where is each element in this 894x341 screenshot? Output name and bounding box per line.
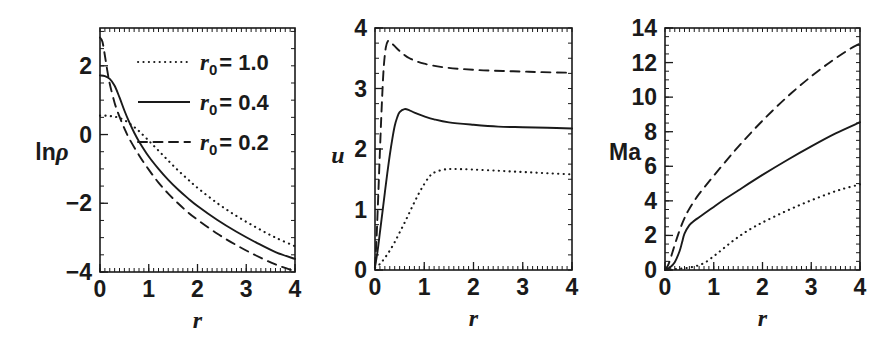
x-tick-label: 3 [805,274,818,300]
x-axis-title: r [758,305,768,331]
y-tick-label: 8 [644,119,657,145]
y-tick-label: −2 [66,190,92,216]
x-tick-label: 1 [707,274,720,300]
y-tick-label: −4 [66,259,92,285]
plot-mach: 0123402468101214rMa [590,0,894,341]
curve-dashed [375,41,572,267]
x-tick-label: 0 [94,276,107,302]
x-tick-label: 3 [516,274,529,300]
x-tick-label: 1 [142,276,155,302]
curve-solid [375,109,572,267]
x-tick-label: 0 [659,274,672,300]
plot-frame [665,28,860,270]
legend-label: r0= 0.4 [200,90,270,118]
y-tick-label: 12 [631,50,657,76]
y-tick-label: 1 [354,197,367,223]
figure-container: 0123420−2−4rlnρr0= 1.0r0= 0.4r0= 0.2 012… [0,0,894,341]
legend-label: r0= 0.2 [200,130,269,158]
y-tick-label: 0 [354,257,367,283]
curve-solid [665,122,860,269]
y-tick-label: 0 [79,122,92,148]
x-tick-label: 3 [240,276,253,302]
legend: r0= 1.0r0= 0.4r0= 0.2 [138,50,270,158]
y-axis-title: Ma [609,139,641,165]
x-tick-label: 4 [566,274,579,300]
legend-label: r0= 1.0 [200,50,269,78]
x-axis-title: r [469,305,479,331]
x-tick-label: 4 [854,274,867,300]
y-tick-label: 3 [354,76,367,102]
y-tick-label: 10 [631,84,657,110]
curve-dotted [665,184,860,269]
x-tick-label: 2 [191,276,204,302]
panel-mach: 0123402468101214rMa [590,0,894,341]
plot-frame [375,28,572,270]
x-tick-label: 2 [756,274,769,300]
x-tick-label: 0 [369,274,382,300]
y-tick-label: 4 [354,15,367,41]
y-tick-label: 2 [354,136,367,162]
y-tick-label: 0 [644,257,657,283]
plot-velocity: 0123401234ru [290,0,590,341]
y-tick-label: 6 [644,153,657,179]
y-tick-label: 2 [644,222,657,248]
x-tick-label: 1 [418,274,431,300]
plot-density: 0123420−2−4rlnρr0= 1.0r0= 0.4r0= 0.2 [0,0,300,341]
panel-velocity: 0123401234ru [290,0,590,341]
y-tick-label: 2 [79,53,92,79]
y-axis-title: lnρ [35,138,68,165]
x-axis-title: r [193,307,203,333]
y-tick-label: 4 [644,188,657,214]
panel-density: 0123420−2−4rlnρr0= 1.0r0= 0.4r0= 0.2 [0,0,300,341]
curve-dotted [375,169,572,268]
x-tick-label: 2 [467,274,480,300]
y-axis-title: u [331,142,344,168]
y-tick-label: 14 [631,15,657,41]
curve-dashed [665,44,860,270]
